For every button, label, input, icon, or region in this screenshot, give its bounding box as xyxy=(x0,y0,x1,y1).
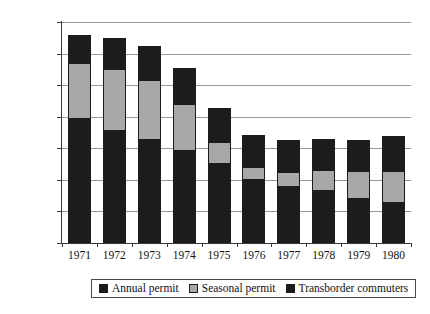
x-axis-tick-label: 1976 xyxy=(237,250,272,262)
bar-segment-annual-permit xyxy=(312,191,335,243)
y-tick-mark xyxy=(57,117,62,118)
gridline xyxy=(62,22,411,23)
bar-1977 xyxy=(277,140,300,243)
legend-item-seasonal-permit: Seasonal permit xyxy=(189,283,276,295)
bar-segment-transborder-commuters xyxy=(138,46,161,81)
x-axis-tick-label: 1977 xyxy=(271,250,306,262)
x-tick-mark xyxy=(271,243,272,247)
bar-segment-seasonal-permit xyxy=(68,63,91,119)
legend-label: Transborder commuters xyxy=(299,283,409,295)
x-axis-tick-label: 1980 xyxy=(376,250,411,262)
bar-1974 xyxy=(173,68,196,243)
bar-segment-seasonal-permit xyxy=(347,171,370,199)
x-axis-tick-label: 1973 xyxy=(132,250,167,262)
bar-segment-seasonal-permit xyxy=(138,80,161,140)
bar-segment-seasonal-permit xyxy=(242,167,265,180)
bar-segment-seasonal-permit xyxy=(312,170,335,191)
x-tick-mark xyxy=(411,243,412,247)
bar-segment-transborder-commuters xyxy=(312,139,335,171)
chart-legend: Annual permitSeasonal permitTransborder … xyxy=(91,279,416,298)
x-tick-mark xyxy=(341,243,342,247)
bar-segment-annual-permit xyxy=(347,199,370,243)
bar-segment-annual-permit xyxy=(242,180,265,243)
bar-segment-annual-permit xyxy=(138,140,161,243)
bar-segment-annual-permit xyxy=(68,119,91,243)
bar-segment-seasonal-permit xyxy=(103,69,126,131)
bar-segment-seasonal-permit xyxy=(382,171,405,203)
bar-segment-transborder-commuters xyxy=(242,135,265,168)
bar-1975 xyxy=(208,108,231,243)
x-axis-tick-label: 1978 xyxy=(306,250,341,262)
bar-segment-annual-permit xyxy=(103,131,126,243)
x-axis-tick-label: 1971 xyxy=(62,250,97,262)
bar-segment-transborder-commuters xyxy=(347,140,370,171)
bar-segment-transborder-commuters xyxy=(277,140,300,172)
bar-segment-annual-permit xyxy=(382,203,405,243)
legend-swatch-icon xyxy=(286,284,295,293)
y-tick-mark xyxy=(57,148,62,149)
bar-segment-transborder-commuters xyxy=(382,136,405,171)
bar-1979 xyxy=(347,140,370,243)
x-tick-mark xyxy=(376,243,377,247)
bar-segment-seasonal-permit xyxy=(173,104,196,151)
legend-item-transborder-commuters: Transborder commuters xyxy=(286,283,409,295)
bar-1973 xyxy=(138,46,161,243)
y-tick-mark xyxy=(57,22,62,23)
legend-swatch-icon xyxy=(189,284,198,293)
x-axis-tick-label: 1979 xyxy=(341,250,376,262)
x-tick-mark xyxy=(237,243,238,247)
y-tick-mark xyxy=(57,54,62,55)
bar-1971 xyxy=(68,35,91,243)
x-axis: 1971197219731974197519761977197819791980 xyxy=(62,243,411,269)
bar-segment-seasonal-permit xyxy=(208,142,231,164)
legend-label: Seasonal permit xyxy=(202,283,276,295)
legend-item-annual-permit: Annual permit xyxy=(99,283,179,295)
bar-1978 xyxy=(312,139,335,243)
legend-swatch-icon xyxy=(99,284,108,293)
x-axis-tick-label: 1972 xyxy=(97,250,132,262)
legend-label: Annual permit xyxy=(112,283,179,295)
y-tick-mark xyxy=(57,211,62,212)
bar-segment-seasonal-permit xyxy=(277,172,300,187)
x-tick-mark xyxy=(306,243,307,247)
stacked-bar-chart: 0100000200000300000400000500000600000700… xyxy=(0,0,430,314)
bar-segment-transborder-commuters xyxy=(173,68,196,104)
bar-segment-transborder-commuters xyxy=(208,108,231,142)
x-tick-mark xyxy=(62,243,63,247)
bar-segment-annual-permit xyxy=(208,164,231,243)
bar-segment-transborder-commuters xyxy=(103,38,126,70)
x-axis-tick-label: 1974 xyxy=(167,250,202,262)
x-tick-mark xyxy=(167,243,168,247)
bar-1976 xyxy=(242,135,265,243)
x-axis-tick-label: 1975 xyxy=(202,250,237,262)
x-tick-mark xyxy=(132,243,133,247)
bar-1972 xyxy=(103,38,126,243)
bar-segment-annual-permit xyxy=(277,187,300,243)
y-tick-mark xyxy=(57,180,62,181)
bar-segment-transborder-commuters xyxy=(68,35,91,63)
y-tick-mark xyxy=(57,85,62,86)
x-tick-mark xyxy=(97,243,98,247)
plot-area xyxy=(62,22,411,243)
bar-1980 xyxy=(382,136,405,243)
x-tick-mark xyxy=(202,243,203,247)
bar-segment-annual-permit xyxy=(173,151,196,243)
